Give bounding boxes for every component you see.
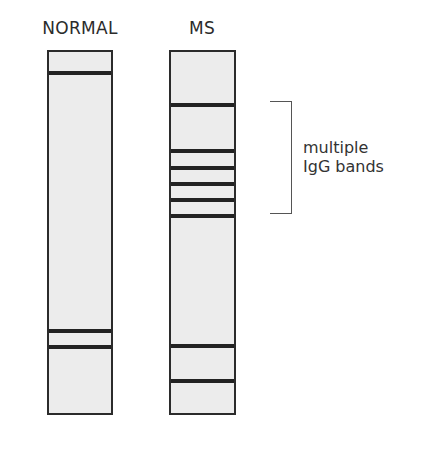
lane-label-ms: MS — [168, 18, 236, 38]
band — [49, 345, 111, 349]
band — [171, 103, 234, 107]
band — [171, 379, 234, 383]
annotation-line-1: multiple — [303, 138, 384, 157]
band — [171, 182, 234, 186]
band — [171, 166, 234, 170]
gel-strip-ms — [169, 50, 236, 415]
band — [49, 71, 111, 75]
band — [49, 329, 111, 333]
bracket-igg-bands — [270, 101, 292, 214]
band — [171, 198, 234, 202]
band — [171, 214, 234, 218]
lane-label-normal: NORMAL — [30, 18, 130, 38]
gel-strip-normal — [47, 50, 113, 415]
annotation-igg-bands: multiple IgG bands — [303, 138, 384, 176]
band — [171, 149, 234, 153]
band — [171, 344, 234, 348]
annotation-line-2: IgG bands — [303, 157, 384, 176]
